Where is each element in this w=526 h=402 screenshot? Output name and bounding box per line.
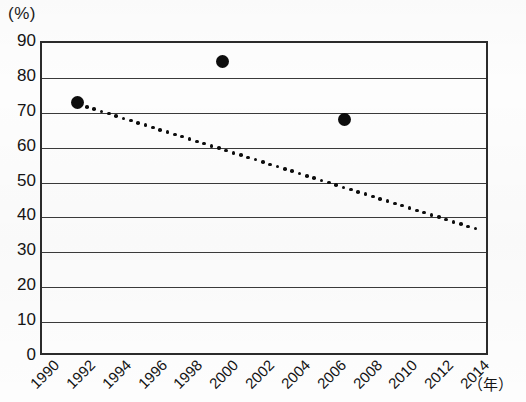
- y-axis-unit-label: (%): [8, 4, 36, 24]
- gridline: [42, 287, 486, 288]
- x-axis-tick-label: 2006: [314, 357, 348, 391]
- x-axis-unit-label: （年）: [468, 377, 513, 392]
- x-axis-tick-label: 2012: [422, 357, 456, 391]
- x-axis-tick-label: 2004: [278, 357, 312, 391]
- y-axis-tick-label: 10: [2, 311, 36, 328]
- x-axis-tick-label: 2002: [242, 357, 276, 391]
- x-axis-tick-label: 2008: [350, 357, 384, 391]
- y-axis-tick-label: 0: [2, 346, 36, 363]
- y-axis-tick-labels: 0102030405060708090: [0, 41, 36, 355]
- y-axis-tick-label: 70: [2, 102, 36, 119]
- gridline: [42, 183, 486, 184]
- gridline: [42, 148, 486, 149]
- x-axis-tick-label: 2010: [386, 357, 420, 391]
- y-axis-tick-label: 20: [2, 276, 36, 293]
- chart-figure: (%) 0102030405060708090 1990199219941996…: [0, 0, 526, 402]
- y-axis-tick-label: 30: [2, 241, 36, 258]
- gridline: [42, 322, 486, 323]
- x-axis-tick-label: 1996: [135, 357, 169, 391]
- gridline: [42, 252, 486, 253]
- x-axis-tick-label: 2000: [207, 357, 241, 391]
- x-axis-tick-label: 1992: [63, 357, 97, 391]
- plot-area: [40, 41, 488, 355]
- x-axis-tick-label: 1998: [171, 357, 205, 391]
- gridline: [42, 217, 486, 218]
- gridline: [42, 113, 486, 114]
- x-axis-tick-labels: 1990199219941996199820002002200420062008…: [40, 357, 488, 402]
- y-axis-tick-label: 80: [2, 67, 36, 84]
- y-axis-tick-label: 40: [2, 206, 36, 223]
- y-axis-tick-label: 60: [2, 137, 36, 154]
- y-axis-tick-label: 50: [2, 172, 36, 189]
- x-axis-tick-label: 1994: [99, 357, 133, 391]
- y-axis-tick-label: 90: [2, 32, 36, 49]
- gridline: [42, 78, 486, 79]
